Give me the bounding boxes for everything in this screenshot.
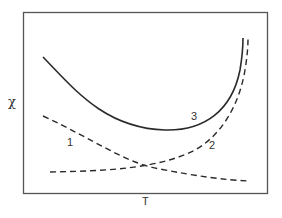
y-axis-label: χ <box>8 94 16 109</box>
curve-2-label: 2 <box>209 139 215 151</box>
curve-2-dashed <box>50 38 248 172</box>
chi-vs-temperature-diagram: 1 2 3 χ T <box>0 0 282 218</box>
x-axis-label: T <box>142 195 149 207</box>
curve-3-label: 3 <box>191 110 197 122</box>
curve-1-label: 1 <box>67 136 73 148</box>
plot-frame <box>24 13 268 194</box>
curve-3-solid <box>43 38 243 130</box>
